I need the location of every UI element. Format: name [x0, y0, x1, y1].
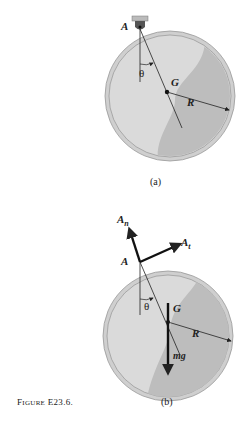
- panel-b-caption: (b): [161, 396, 173, 407]
- label-g-a: G: [171, 76, 179, 88]
- panel-a-diagram: [105, 16, 240, 170]
- label-pivot-b: A: [121, 255, 128, 267]
- figure-caption: FIGURE E23.6.: [17, 397, 73, 407]
- force-an-arrow: [130, 231, 140, 262]
- pivot-support-a: [132, 16, 148, 21]
- label-at: At: [181, 236, 191, 251]
- label-r-a: R: [187, 96, 194, 108]
- figure-canvas: [0, 0, 244, 423]
- force-at-arrow: [140, 245, 178, 262]
- label-g-b: G: [173, 302, 181, 314]
- panel-a-caption: (a): [150, 176, 161, 187]
- label-r-b: R: [192, 327, 199, 339]
- label-mg: mg: [173, 350, 186, 361]
- label-pivot-a: A: [121, 20, 128, 32]
- label-theta-a: θ: [139, 67, 144, 79]
- label-theta-b: θ: [144, 300, 149, 312]
- label-an: An: [117, 213, 129, 228]
